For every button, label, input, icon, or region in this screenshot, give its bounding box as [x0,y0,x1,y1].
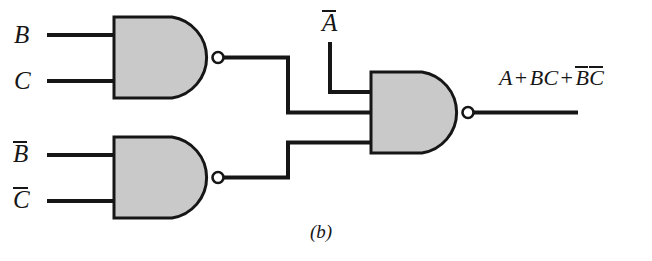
expr-term-bc: BC [530,65,559,90]
expr-term-b-not: B [575,65,589,90]
nand-gate-2 [47,137,224,218]
overbar-a: A [322,9,337,35]
nand-gate-2-bubble [213,172,224,183]
figure-caption-text: (b) [310,221,332,242]
input-label-b: B [14,22,29,47]
logic-circuit-figure: B C B C A A+BC+BC (b) [0,0,652,261]
nand-gate-3 [371,72,474,153]
input-label-a-not: A [322,9,337,35]
input-label-a-not-text: A [322,9,337,36]
input-label-c-text: C [14,67,31,94]
overbar-b: B [13,140,28,166]
input-label-c: C [14,68,31,93]
input-label-c-not: C [13,186,30,212]
figure-caption: (b) [310,222,332,241]
expr-term-a: A [499,65,513,90]
nand-gate-3-body [371,72,457,153]
overbar-expr-b: B [575,66,589,89]
input-label-b-not: B [13,140,28,166]
nand-gate-1-body [114,17,207,98]
expr-operator-1: + [513,65,530,90]
input-label-c-not-text: C [13,186,30,213]
input-label-b-not-text: B [13,140,28,167]
output-expression: A+BC+BC [499,66,604,89]
wire-gate1-to-gate3 [224,58,371,113]
nand-gate-3-bubble [463,107,474,118]
nand-gate-2-body [114,137,207,218]
wire-gate2-to-gate3 [224,143,371,178]
expr-operator-2: + [559,65,576,90]
nand-gate-1-bubble [213,52,224,63]
wire-a-not-to-gate3 [330,42,371,92]
nand-gate-1 [47,17,224,98]
input-label-b-text: B [14,21,29,48]
overbar-c: C [13,186,30,212]
overbar-expr-c: C [589,66,604,89]
expr-term-c-not: C [589,65,604,90]
